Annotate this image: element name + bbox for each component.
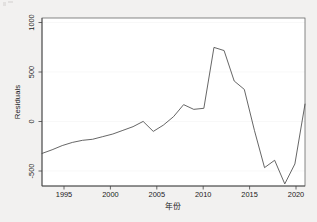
y-tick-label: 500 xyxy=(27,66,36,78)
x-tick-label: 2005 xyxy=(149,190,165,199)
x-tick-label: 2015 xyxy=(241,190,257,199)
y-tick-label: -500 xyxy=(27,164,36,179)
x-tick-label: 2010 xyxy=(195,190,211,199)
y-axis-title: Residuals xyxy=(13,85,22,119)
x-tick-label: 1995 xyxy=(56,190,72,199)
x-tick-label: 2000 xyxy=(102,190,118,199)
chart-figure: 1000 500 0 -500 Residuals 1995 2000 2005… xyxy=(0,0,317,222)
y-tick-label: 0 xyxy=(27,119,36,123)
residuals-line-chart: 1000 500 0 -500 Residuals 1995 2000 2005… xyxy=(0,0,317,222)
x-tick-label: 2020 xyxy=(288,190,304,199)
x-axis-title: 年份 xyxy=(165,201,181,211)
plot-area-background xyxy=(42,18,305,186)
y-tick-label: 1000 xyxy=(27,14,36,30)
